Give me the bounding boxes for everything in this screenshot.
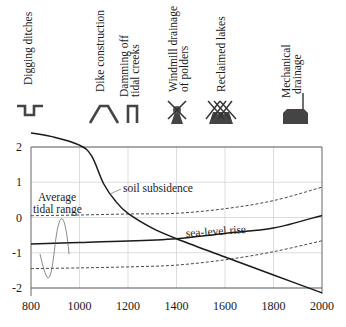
x-axis-ticks: 800100012001400160018002000 [22, 299, 334, 313]
event-label: Digging ditches [22, 11, 35, 85]
label-soil-subsidence: soil subsidence [123, 182, 193, 194]
x-tick-label: 1800 [262, 299, 286, 313]
event-label: Reclaimed lakes [215, 16, 227, 92]
ditch-icon [17, 106, 43, 115]
y-tick-label: -2 [12, 281, 22, 295]
event-label: drainage [291, 54, 304, 94]
x-tick-label: 1200 [116, 299, 140, 313]
leader-soil-subsidence [110, 189, 121, 194]
windmill-icon [168, 101, 186, 124]
y-tick-label: 2 [16, 140, 22, 154]
windmills-group-icon [206, 101, 236, 124]
event-mechanical-drainage: Mechanical drainage [280, 44, 308, 124]
y-tick-label: 0 [16, 211, 22, 225]
event-windmill-drainage: Windmill drainage of polders [167, 6, 191, 124]
y-tick-label: 1 [16, 175, 22, 189]
chart: 800100012001400160018002000 210-1-2 soil… [0, 0, 346, 327]
tidal-range-wave [40, 219, 69, 278]
x-tick-label: 800 [22, 299, 40, 313]
dam-icon [128, 106, 137, 123]
x-tick-label: 1600 [213, 299, 237, 313]
event-label: Dike construction [94, 10, 106, 92]
y-tick-label: -1 [12, 246, 22, 260]
event-label: of polders [178, 45, 191, 92]
x-tick-label: 1000 [68, 299, 92, 313]
grid [31, 147, 322, 288]
event-dike-construction: Dike construction [90, 10, 118, 123]
event-damming-tidal-creeks: Damming off tidal creeks [118, 35, 141, 123]
label-tidal-range: tidal range [33, 203, 82, 216]
event-label: tidal creeks [129, 44, 141, 97]
x-tick-label: 1400 [165, 299, 189, 313]
event-digging-ditches: Digging ditches [17, 11, 43, 115]
x-tick-label: 2000 [310, 299, 334, 313]
event-reclaimed-lakes: Reclaimed lakes [206, 16, 236, 124]
y-axis-ticks: 210-1-2 [12, 140, 22, 295]
dike-icon [90, 106, 118, 123]
label-sea-level-rise: sea-level rise [185, 223, 246, 239]
